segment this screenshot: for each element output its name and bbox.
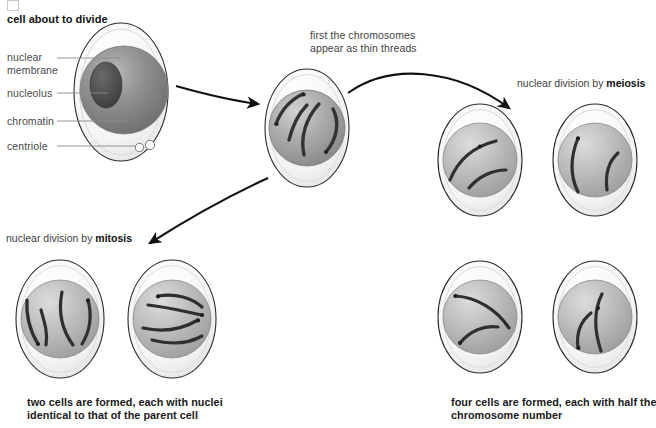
centriole-icon-2 xyxy=(145,140,154,149)
centromere-dot xyxy=(86,298,90,302)
centromere-dot xyxy=(36,342,40,346)
cell-meiosis-cell-4[interactable] xyxy=(553,261,637,373)
note-first-threads: first the chromosomes appear as thin thr… xyxy=(310,29,417,55)
cell-mitosis-cell-2[interactable] xyxy=(128,260,216,378)
cell-parent-cell[interactable] xyxy=(74,23,168,161)
centromere-dot xyxy=(453,294,457,298)
label-nuclear-membrane: nuclear membrane xyxy=(7,51,58,77)
cell-threads-cell[interactable] xyxy=(265,69,349,187)
centriole-icon-1 xyxy=(135,143,143,151)
centromere-dot xyxy=(196,318,200,322)
centromere-dot xyxy=(156,294,160,298)
note-meiosis: nuclear division by meiosis xyxy=(517,77,645,90)
label-centriole: centriole xyxy=(7,140,48,153)
arrow-threads-to-mitosis xyxy=(150,178,268,243)
caption-meiosis: four cells are formed, each with half th… xyxy=(451,396,656,422)
note-meiosis-prefix: nuclear division by xyxy=(517,77,606,89)
cell-meiosis-cell-3[interactable] xyxy=(438,261,522,373)
arrow-threads-to-meiosis xyxy=(348,74,509,108)
label-nucleolus: nucleolus xyxy=(7,87,52,100)
cell-meiosis-cell-1[interactable] xyxy=(438,104,522,216)
nucleolus-parent-cell xyxy=(90,62,122,108)
caption-mitosis: two cells are formed, each with nuclei i… xyxy=(27,396,223,422)
note-mitosis-term: mitosis xyxy=(95,232,132,244)
note-mitosis: nuclear division by mitosis xyxy=(6,232,132,245)
label-chromatin: chromatin xyxy=(7,115,54,128)
arrow-parent-to-threads xyxy=(176,86,258,104)
cell-mitosis-cell-1[interactable] xyxy=(16,260,104,378)
centromere-dot xyxy=(301,92,305,96)
centromere-dot xyxy=(576,346,580,350)
note-mitosis-prefix: nuclear division by xyxy=(6,232,95,244)
centromere-dot xyxy=(324,150,328,154)
centromere-dot xyxy=(596,306,600,310)
page-title: cell about to divide xyxy=(7,13,108,26)
note-meiosis-term: meiosis xyxy=(606,77,645,89)
centromere-dot xyxy=(274,122,278,126)
nucleus-meiosis-cell-1 xyxy=(443,123,517,197)
centromere-dot xyxy=(478,144,482,148)
centromere-dot xyxy=(458,341,462,345)
centromere-dot xyxy=(576,136,580,140)
nucleus-threads-cell xyxy=(269,90,345,166)
nucleus-meiosis-cell-3 xyxy=(443,280,517,354)
nucleus-meiosis-cell-2 xyxy=(558,123,632,197)
cell-meiosis-cell-2[interactable] xyxy=(553,104,637,216)
centromere-dot xyxy=(200,313,204,317)
